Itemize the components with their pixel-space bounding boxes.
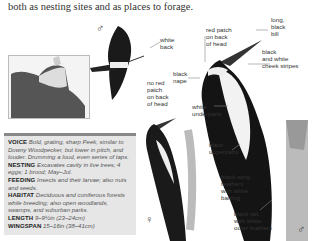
info-length: LENGTH 9–9½in (23–24cm) (8, 215, 132, 223)
info-nesting: NESTING Excavates cavity in live trees; … (8, 162, 132, 177)
info-box: VOICE Bold, grating, sharp Peek, similar… (4, 133, 136, 235)
info-feeding: FEEDING Insects and their larvae; also n… (8, 177, 132, 192)
info-wingspan: WINGSPAN 15–16in (38–41cm) (8, 223, 132, 231)
info-habitat: HABITAT Deciduous and coniferous forests… (8, 192, 132, 215)
info-voice: VOICE Bold, grating, sharp Peek, similar… (8, 139, 132, 162)
